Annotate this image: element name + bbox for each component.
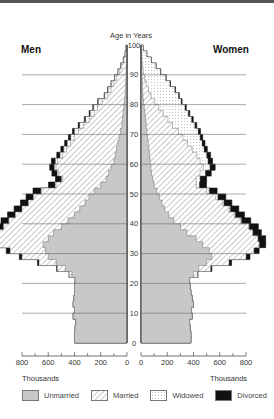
population-pyramid: 0102030405060708090100 00200200400400600…: [0, 0, 274, 419]
legend: Unmarried Married Widowed Divorced: [22, 390, 274, 401]
legend-item-divorced: Divorced: [215, 390, 267, 401]
widowed-swatch: [150, 390, 167, 401]
age-gridlines: 0102030405060708090100: [22, 41, 246, 348]
legend-label: Married: [113, 391, 138, 400]
legend-label: Divorced: [237, 391, 267, 400]
x-axis-label-left: Thousands: [22, 374, 59, 383]
age-tick-label: 30: [130, 249, 138, 258]
legend-item-widowed: Widowed: [150, 390, 203, 401]
legend-label: Widowed: [172, 391, 203, 400]
legend-item-unmarried: Unmarried: [22, 390, 79, 401]
x-tick-label-right: 0: [139, 358, 143, 367]
legend-label: Unmarried: [44, 391, 79, 400]
age-tick-label: 10: [130, 309, 138, 318]
x-tick-label-left: 400: [68, 358, 81, 367]
x-tick-label-left: 800: [16, 358, 29, 367]
age-tick-label: 70: [130, 130, 138, 139]
age-tick-label: 20: [130, 279, 138, 288]
age-tick-label: 80: [130, 100, 138, 109]
x-tick-label-right: 200: [161, 358, 174, 367]
x-tick-label-right: 400: [187, 358, 200, 367]
unmarried-swatch: [22, 390, 39, 401]
divorced-swatch: [215, 390, 232, 401]
x-tick-label-left: 600: [42, 358, 55, 367]
age-tick-label: 40: [130, 219, 138, 228]
x-tick-label-right: 800: [240, 358, 253, 367]
x-tick-label-left: 0: [125, 358, 129, 367]
age-tick-label: 90: [130, 70, 138, 79]
legend-item-married: Married: [91, 390, 138, 401]
x-tick-label-right: 600: [213, 358, 226, 367]
x-tick-label-left: 200: [94, 358, 107, 367]
married-swatch: [91, 390, 108, 401]
age-tick-label: 60: [130, 160, 138, 169]
x-axis-label-right: Thousands: [210, 374, 247, 383]
age-tick-label: 50: [130, 190, 138, 199]
x-axes: 00200200400400600600800800: [16, 352, 253, 367]
age-tick-label: 0: [132, 339, 136, 348]
age-tick-label: 100: [128, 41, 141, 50]
